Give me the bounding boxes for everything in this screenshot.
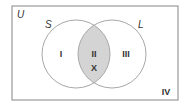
region-ii-label: II	[91, 49, 96, 59]
region-i-label: I	[60, 49, 63, 59]
venn-diagram: U S L I II X III IV	[0, 0, 187, 104]
set-l-label: L	[138, 19, 144, 30]
region-iii-label: III	[122, 49, 130, 59]
region-iv-label: IV	[162, 87, 171, 97]
set-s-label: S	[45, 19, 52, 30]
element-x-label: X	[91, 63, 97, 73]
universe-label: U	[17, 9, 25, 20]
